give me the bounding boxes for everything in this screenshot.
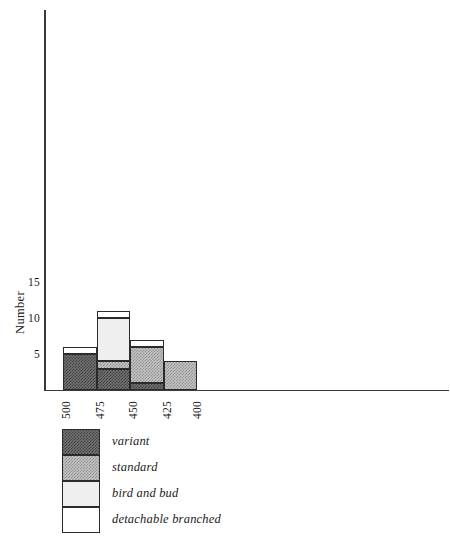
legend-swatch-variant <box>62 429 100 455</box>
legend-item-standard: standard <box>62 455 392 481</box>
y-axis-ticks: 15 10 5 <box>0 0 40 400</box>
legend-label-standard: standard <box>112 460 158 475</box>
legend-label-bird-and-bud: bird and bud <box>112 486 179 501</box>
bar-bin-475-450 <box>97 10 131 390</box>
bar-segment-detachable-branched <box>130 340 164 347</box>
legend-swatch-detachable-branched <box>62 507 100 533</box>
x-tick-500: 500 <box>60 387 72 433</box>
y-tick-15: 15 <box>6 277 40 289</box>
x-tick-425: 425 <box>161 387 173 433</box>
bar-segment-standard <box>97 361 131 368</box>
y-tick-5: 5 <box>6 349 40 361</box>
x-tick-475: 475 <box>94 387 106 433</box>
x-tick-450: 450 <box>127 387 139 433</box>
legend-item-detachable-branched: detachable branched <box>62 507 392 533</box>
bar-segment-detachable-branched <box>97 311 131 318</box>
legend-label-variant: variant <box>112 434 150 449</box>
x-tick-400: 400 <box>191 387 203 433</box>
x-axis-ticks: 500 475 450 425 400 <box>0 391 450 431</box>
y-tick-10: 10 <box>6 313 40 325</box>
legend-item-variant: variant <box>62 429 392 455</box>
bar-segment-bird-and-bud <box>97 318 131 361</box>
legend-item-bird-and-bud: bird and bud <box>62 481 392 507</box>
bar-segment-standard <box>130 347 164 383</box>
plot-area <box>45 10 449 390</box>
bar-bin-425-400 <box>164 10 198 390</box>
bar-segment-detachable-branched <box>63 347 97 354</box>
legend-swatch-standard <box>62 455 100 481</box>
bar-segment-variant <box>63 354 97 390</box>
legend-label-detachable-branched: detachable branched <box>112 512 221 527</box>
histogram-figure: Number 15 10 5 500 <box>0 0 450 550</box>
bar-bin-500-475 <box>63 10 97 390</box>
bar-segment-standard <box>164 361 198 390</box>
bar-bin-450-425 <box>130 10 164 390</box>
legend: variant standard bird and bud detachable… <box>62 429 392 533</box>
legend-swatch-bird-and-bud <box>62 481 100 507</box>
